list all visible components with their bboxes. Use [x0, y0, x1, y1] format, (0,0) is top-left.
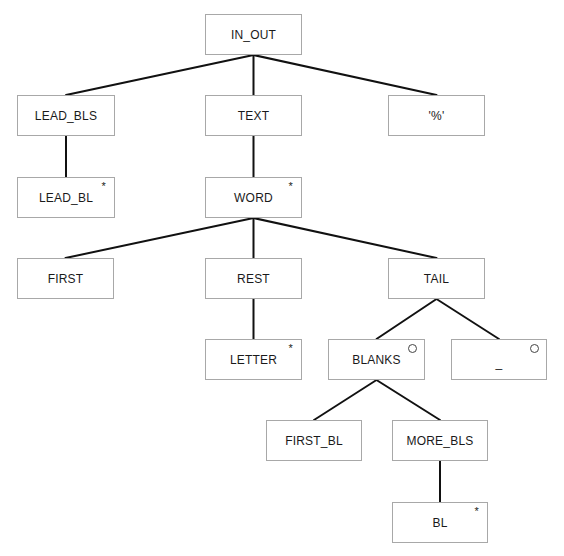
node-in-out: IN_OUT	[205, 14, 302, 55]
node-label: BL	[432, 516, 447, 530]
edge-tail-underscore	[437, 299, 500, 339]
edge-in_out-percent	[254, 55, 437, 95]
node-label: _	[496, 356, 503, 370]
node-lead-bls: LEAD_BLS	[17, 95, 115, 136]
structure-diagram: IN_OUT LEAD_BLS TEXT '%' LEAD_BL * WORD …	[0, 0, 564, 556]
node-more-bls: MORE_BLS	[392, 420, 488, 461]
iteration-marker-icon: *	[102, 181, 106, 192]
edge-in_out-lead_bls	[66, 55, 254, 95]
selection-marker-icon	[408, 344, 417, 353]
node-label: MORE_BLS	[407, 434, 474, 448]
node-label: FIRST_BL	[285, 434, 343, 448]
selection-marker-icon	[530, 344, 539, 353]
node-label: REST	[237, 272, 270, 286]
node-label: WORD	[234, 191, 273, 205]
node-percent: '%'	[388, 95, 485, 136]
node-label: TAIL	[424, 272, 449, 286]
node-rest: REST	[205, 258, 302, 299]
iteration-marker-icon: *	[289, 343, 293, 354]
node-label: '%'	[429, 109, 445, 123]
node-text: TEXT	[205, 95, 302, 136]
edge-blanks-first_bl	[314, 380, 377, 420]
node-word: WORD *	[205, 177, 302, 218]
node-label: FIRST	[48, 272, 84, 286]
node-tail: TAIL	[388, 258, 485, 299]
iteration-marker-icon: *	[475, 506, 479, 517]
node-blanks: BLANKS	[328, 339, 425, 380]
node-label: LETTER	[230, 353, 277, 367]
node-label: TEXT	[238, 109, 269, 123]
edge-word-tail	[254, 218, 437, 258]
node-bl: BL *	[392, 502, 488, 543]
node-first-bl: FIRST_BL	[266, 420, 362, 461]
edge-blanks-more_bls	[377, 380, 441, 420]
node-lead-bl: LEAD_BL *	[17, 177, 115, 218]
iteration-marker-icon: *	[289, 181, 293, 192]
edge-word-first	[66, 218, 254, 258]
node-first: FIRST	[17, 258, 114, 299]
node-label: BLANKS	[352, 353, 401, 367]
node-label: LEAD_BL	[39, 191, 93, 205]
node-letter: LETTER *	[205, 339, 302, 380]
node-label: IN_OUT	[231, 28, 276, 42]
node-underscore: _	[451, 339, 547, 380]
node-label: LEAD_BLS	[35, 109, 97, 123]
edge-tail-blanks	[377, 299, 437, 339]
